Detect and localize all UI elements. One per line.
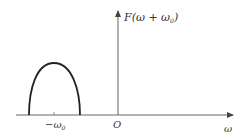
x-axis-label: ω (224, 123, 232, 134)
spectrum-curve (29, 63, 80, 115)
origin-label: O (113, 119, 121, 130)
spectrum-diagram: F(ω + ω0) O ω −ω0 (0, 0, 251, 139)
y-axis-label: F(ω + ω0) (123, 11, 178, 24)
tick-label-neg-omega0: −ω0 (45, 119, 66, 131)
